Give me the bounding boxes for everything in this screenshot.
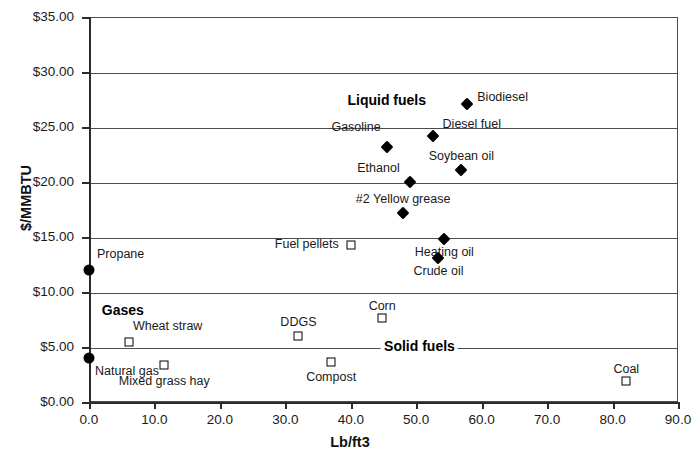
x-axis-tick-label: 50.0 [386,412,446,427]
data-point-label: Gasoline [331,121,380,134]
data-point-label: Heating oil [415,246,474,259]
data-point-label: Propane [97,248,144,261]
x-axis-tick [678,402,680,409]
gridline [90,73,677,74]
y-axis-tick [82,347,89,349]
data-point-marker [294,332,303,341]
data-point-label: Diesel fuel [443,118,501,131]
y-axis-tick-label: $25.00 [0,119,74,134]
x-axis-tick-label: 0.0 [59,412,119,427]
x-axis-tick-label: 70.0 [517,412,577,427]
y-axis-tick [82,237,89,239]
data-point-marker [378,314,387,323]
x-axis-tick-label: 80.0 [583,412,643,427]
data-point-label: Fuel pellets [275,238,339,251]
x-axis-tick [285,402,287,409]
data-point-label: Compost [306,371,356,384]
x-axis-tick [351,402,353,409]
x-axis-tick-label: 10.0 [124,412,184,427]
data-point-marker [160,360,169,369]
y-axis-tick [82,402,89,404]
scatter-chart: $0.00$5.00$10.00$15.00$20.00$25.00$30.00… [0,0,700,462]
x-axis-tick [482,402,484,409]
x-axis-title: Lb/ft3 [0,434,700,450]
x-axis-tick-label: 20.0 [190,412,250,427]
data-point-label: DDGS [280,316,316,329]
x-axis-tick-label: 90.0 [648,412,700,427]
x-axis-tick-label: 60.0 [452,412,512,427]
y-axis-tick [82,292,89,294]
y-axis-tick [82,182,89,184]
gridline [90,293,677,294]
data-point-marker [346,240,355,249]
y-axis-tick-label: $5.00 [0,339,74,354]
data-point-marker [622,377,631,386]
y-axis-tick [82,17,89,19]
x-axis-tick [154,402,156,409]
data-point-label: #2 Yellow grease [356,193,451,206]
x-axis-line [89,402,678,404]
gridline [90,238,677,239]
group-annotation: Gases [99,303,147,318]
y-axis-tick-label: $30.00 [0,64,74,79]
data-point-marker [84,265,95,276]
group-annotation: Liquid fuels [344,93,429,108]
y-axis-tick [82,72,89,74]
data-point-label: Ethanol [357,162,399,175]
x-axis-tick [416,402,418,409]
x-axis-tick [220,402,222,409]
y-axis-tick-label: $35.00 [0,9,74,24]
data-point-marker [327,358,336,367]
gridline [90,128,677,129]
data-point-marker [124,337,133,346]
x-axis-tick [613,402,615,409]
data-point-label: Corn [369,300,396,313]
data-point-label: Mixed grass hay [119,375,210,388]
data-point-label: Biodiesel [477,91,528,104]
x-axis-tick [89,402,91,409]
data-point-marker [84,353,95,364]
y-axis-title: $/MMBTU [18,138,34,258]
y-axis-tick-label: $20.00 [0,174,74,189]
data-point-label: Crude oil [413,265,463,278]
y-axis-tick-label: $15.00 [0,229,74,244]
y-axis-line [89,17,91,402]
group-annotation: Solid fuels [381,339,458,354]
data-point-label: Coal [613,363,639,376]
x-axis-tick [547,402,549,409]
y-axis-tick [82,127,89,129]
data-point-label: Soybean oil [429,150,494,163]
gridline [90,183,677,184]
x-axis-tick-label: 30.0 [255,412,315,427]
y-axis-tick-label: $0.00 [0,394,74,409]
data-point-label: Wheat straw [133,320,202,333]
y-axis-tick-label: $10.00 [0,284,74,299]
x-axis-tick-label: 40.0 [321,412,381,427]
